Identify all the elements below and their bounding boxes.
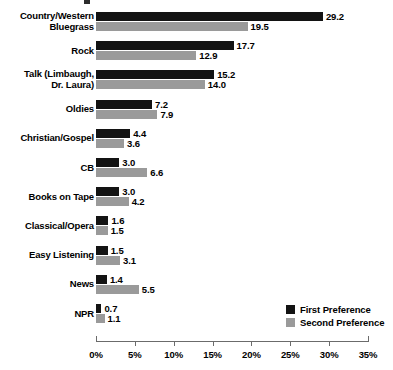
legend-item: Second Preference (286, 312, 384, 325)
legend-item: First Preference (286, 299, 384, 312)
bar-second-preference (96, 51, 196, 60)
bar-group: Classical/Opera1.61.5 (0, 216, 393, 238)
category-label: Country/Western Bluegrass (2, 11, 94, 32)
category-label: Classical/Opera (2, 221, 94, 232)
x-axis-line (96, 341, 368, 342)
bar-second-preference (96, 197, 129, 206)
bar-first-preference (96, 12, 323, 21)
bar-value-label: 17.7 (237, 41, 255, 50)
bar-value-label: 6.6 (150, 168, 163, 177)
bar-value-label: 5.5 (142, 285, 155, 294)
chart-legend: First PreferenceSecond Preference (286, 299, 384, 325)
bar-first-preference (96, 187, 119, 196)
bar-first-preference (96, 246, 108, 255)
bar-value-label: 1.5 (111, 246, 124, 255)
category-label: CB (2, 163, 94, 174)
category-label: Oldies (2, 104, 94, 115)
bar-first-preference (96, 41, 234, 50)
bar-value-label: 4.4 (133, 129, 146, 138)
bar-group: CB3.06.6 (0, 158, 393, 180)
legend-swatch (286, 318, 295, 327)
bar-second-preference (96, 256, 120, 265)
bar-group: Talk (Limbaugh, Dr. Laura)15.214.0 (0, 70, 393, 92)
category-label: Christian/Gospel (2, 133, 94, 144)
x-axis-tick-label: 35% (344, 349, 392, 360)
x-axis-tick (290, 341, 291, 346)
bar-second-preference (96, 285, 139, 294)
category-label: News (2, 279, 94, 290)
bar-value-label: 1.5 (111, 226, 124, 235)
bar-group: Country/Western Bluegrass29.219.5 (0, 12, 393, 34)
category-label: Easy Listening (2, 250, 94, 261)
x-axis-tick (174, 341, 175, 346)
bar-group: Rock17.712.9 (0, 41, 393, 63)
bar-group: Easy Listening1.53.1 (0, 246, 393, 268)
x-axis-tick (213, 341, 214, 346)
bar-second-preference (96, 139, 124, 148)
bar-second-preference (96, 314, 105, 323)
bar-value-label: 3.0 (122, 158, 135, 167)
bar-first-preference (96, 70, 214, 79)
bar-value-label: 14.0 (208, 80, 226, 89)
bar-group: News1.45.5 (0, 275, 393, 297)
category-label: NPR (2, 309, 94, 320)
bar-first-preference (96, 158, 119, 167)
bar-chart: Country/Western Bluegrass29.219.5Rock17.… (0, 0, 393, 370)
bar-value-label: 1.4 (110, 275, 123, 284)
bar-value-label: 3.1 (123, 256, 136, 265)
bar-group: Books on Tape3.04.2 (0, 187, 393, 209)
bar-value-label: 1.1 (108, 314, 121, 323)
category-label: Rock (2, 46, 94, 57)
bar-first-preference (96, 100, 152, 109)
bar-second-preference (96, 80, 205, 89)
legend-label: Second Preference (300, 317, 384, 328)
x-axis-tick (135, 341, 136, 346)
x-axis-tick (329, 341, 330, 346)
bar-value-label: 19.5 (251, 22, 269, 31)
bar-group: Oldies7.27.9 (0, 100, 393, 122)
bar-first-preference (96, 275, 107, 284)
bar-value-label: 15.2 (217, 70, 235, 79)
bar-group: Christian/Gospel4.43.6 (0, 129, 393, 151)
bar-second-preference (96, 22, 248, 31)
bar-value-label: 7.2 (155, 100, 168, 109)
bar-second-preference (96, 226, 108, 235)
bar-first-preference (96, 216, 108, 225)
x-axis-tick (251, 341, 252, 346)
bar-value-label: 4.2 (132, 197, 145, 206)
bar-second-preference (96, 168, 147, 177)
bar-value-label: 3.6 (127, 139, 140, 148)
bar-first-preference (96, 304, 101, 313)
bar-value-label: 29.2 (326, 12, 344, 21)
bar-second-preference (96, 110, 157, 119)
bar-value-label: 12.9 (199, 51, 217, 60)
bar-value-label: 1.6 (111, 216, 124, 225)
bar-first-preference (96, 129, 130, 138)
x-axis-tick (96, 336, 97, 342)
bar-value-label: 0.7 (104, 304, 117, 313)
category-label: Talk (Limbaugh, Dr. Laura) (2, 69, 94, 90)
x-axis-tick (368, 336, 369, 342)
category-label: Books on Tape (2, 192, 94, 203)
bar-value-label: 7.9 (160, 110, 173, 119)
bar-value-label: 3.0 (122, 187, 135, 196)
scan-artifact (84, 0, 90, 4)
